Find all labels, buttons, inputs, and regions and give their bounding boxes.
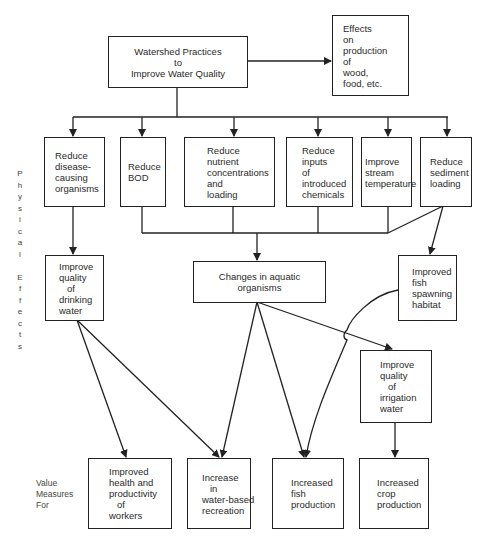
node-label: Increased crop production <box>377 477 421 510</box>
node-label: Changes in aquatic organisms <box>219 271 300 293</box>
node-effects-production: Effects on production of wood, food, etc… <box>332 15 409 96</box>
node-improved-fish-spawning: Improved fish spawning habitat <box>398 255 457 321</box>
node-label: Increased fish production <box>291 477 335 510</box>
node-increased-fish-production: Increased fish production <box>272 458 344 529</box>
node-label: Effects on production of wood, food, etc… <box>343 23 387 89</box>
node-improve-drinking-water: Improve quality of drinking water <box>45 255 104 321</box>
node-reduce-inputs: Reduce inputs of introduced chemicals <box>286 137 353 207</box>
node-improve-irrigation-water: Improve quality of irrigation water <box>360 350 432 423</box>
node-water-based-recreation: Increase in water-based recreation <box>187 458 251 529</box>
node-label: Improve quality of irrigation water <box>380 359 416 414</box>
node-label: Improve quality of drinking water <box>59 261 93 316</box>
node-label: Reduce sediment loading <box>430 156 469 189</box>
physical-effects-label: P h y s i c a l E f f e c t s <box>16 168 24 352</box>
node-increased-crop-production: Increased crop production <box>359 458 429 529</box>
node-label: Reduce disease- causing organisms <box>55 150 99 194</box>
node-label: Improved fish spawning habitat <box>412 266 452 310</box>
node-changes-aquatic-organisms: Changes in aquatic organisms <box>193 261 326 303</box>
node-label: Reduce BOD <box>128 161 161 183</box>
node-reduce-disease: Reduce disease- causing organisms <box>44 137 105 207</box>
node-reduce-bod: Reduce BOD <box>120 137 166 207</box>
node-label: Increase in water-based recreation <box>202 472 254 516</box>
node-label: Reduce inputs of introduced chemicals <box>302 145 346 200</box>
node-watershed-practices: Watershed Practices to Improve Water Qua… <box>108 36 248 88</box>
node-improve-stream-temperature: Improve stream temperature <box>361 137 412 207</box>
node-health-productivity-workers: Improved health and productivity of work… <box>88 458 172 529</box>
node-label: Reduce nutrient concentrations and loadi… <box>207 145 269 200</box>
node-label: Improved health and productivity of work… <box>109 466 157 521</box>
node-label: Improve stream temperature <box>365 156 416 189</box>
node-reduce-nutrient: Reduce nutrient concentrations and loadi… <box>184 137 275 207</box>
value-measures-label: Value Measures For <box>36 478 73 511</box>
node-reduce-sediment: Reduce sediment loading <box>420 137 472 207</box>
node-label: Watershed Practices to Improve Water Qua… <box>131 46 225 79</box>
